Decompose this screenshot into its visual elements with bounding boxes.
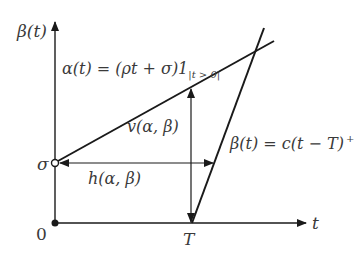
vertical-deviation-label: v(α, β) <box>127 117 179 136</box>
y-axis-label: β(t) <box>16 21 47 41</box>
sigma-point <box>52 160 59 167</box>
horizontal-deviation-label: h(α, β) <box>88 169 141 188</box>
beta-curve <box>192 28 264 223</box>
diagram-canvas: β(t) t 0 σ T α(t) = (ρt + σ)1|t > 0| β(t… <box>0 0 361 259</box>
sigma-label: σ <box>37 154 49 174</box>
x-axis-label: t <box>312 213 319 233</box>
origin-label: 0 <box>36 224 47 244</box>
beta-label: β(t) = c(t − T)+ <box>229 133 354 153</box>
origin-point <box>52 220 59 227</box>
T-label: T <box>183 229 196 249</box>
alpha-label: α(t) = (ρt + σ)1|t > 0| <box>62 59 220 81</box>
